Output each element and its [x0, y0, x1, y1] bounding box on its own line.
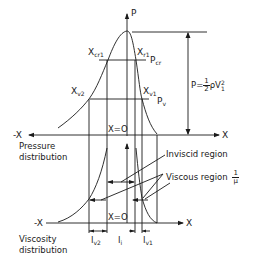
li-label: li: [118, 236, 122, 245]
viscosity-origin-label: X=O: [108, 213, 128, 222]
viscosity-x-pos-label: X: [186, 219, 192, 228]
viscosity-x-neg-label: -X: [34, 219, 43, 228]
pcr-label: Pcr: [150, 56, 161, 65]
inviscid-region-label: Inviscid region: [166, 150, 228, 159]
lv2-label: lv2: [91, 236, 101, 245]
pressure-x-pos-label: X: [222, 131, 228, 140]
inviscid-leader: [121, 155, 165, 182]
xv2-label: Xv2: [71, 87, 85, 96]
pressure-x-neg-label: -X: [13, 131, 22, 140]
pressure-viscosity-diagram: P Xcr1 Xr1 Pcr Xv2 Xv1 Pv P=12ρV21 X=O -…: [0, 0, 256, 263]
peak-pressure-formula: P=12ρV21: [191, 78, 225, 93]
pressure-distribution-title: Pressure distribution: [19, 141, 67, 163]
xr1-label: Xr1: [137, 48, 149, 57]
lv1-label: lv1: [143, 236, 153, 245]
viscous-leader-left: [101, 174, 163, 200]
pv-label: Pv: [157, 97, 166, 106]
viscous-region-label: Viscous region 1μ: [166, 170, 239, 185]
p-axis-label: P: [131, 9, 136, 18]
xcr1-label: Xcr1: [88, 48, 104, 57]
viscosity-distribution-title: Viscosity distribution: [19, 234, 67, 256]
xv1-label: Xv1: [143, 87, 157, 96]
pressure-origin-label: X=O: [108, 125, 128, 134]
